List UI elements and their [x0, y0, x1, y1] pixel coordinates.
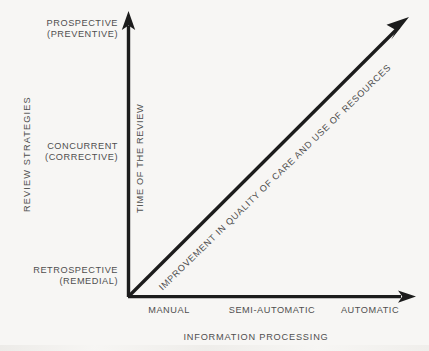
y-axis-category-retrospective: RETROSPECTIVE (REMEDIAL)	[33, 265, 118, 288]
y-axis-inner-annotation: TIME OF THE REVIEW	[135, 104, 146, 213]
y-axis-category-prospective: PROSPECTIVE (PREVENTIVE)	[47, 18, 118, 41]
x-axis-tick-automatic: AUTOMATIC	[332, 305, 408, 316]
x-axis-title: INFORMATION PROCESSING	[156, 332, 356, 343]
y-axis-category-retrospective-line1: RETROSPECTIVE	[33, 265, 118, 276]
y-axis-category-retrospective-line2: (REMEDIAL)	[33, 276, 118, 287]
y-axis-category-prospective-line2: (PREVENTIVE)	[47, 29, 118, 40]
y-axis-title: REVIEW STRATEGIES	[22, 96, 33, 212]
y-axis-category-prospective-line1: PROSPECTIVE	[47, 18, 118, 29]
scan-edge-artifact	[0, 345, 429, 351]
x-axis-tick-manual: MANUAL	[140, 305, 198, 316]
y-axis-category-concurrent-line1: CONCURRENT	[45, 141, 118, 152]
x-axis-tick-semi-automatic: SEMI-AUTOMATIC	[224, 305, 320, 316]
diagonal-arrow-line	[129, 27, 399, 296]
y-axis-category-concurrent-line2: (CORRECTIVE)	[45, 152, 118, 163]
y-axis-category-concurrent: CONCURRENT (CORRECTIVE)	[45, 141, 118, 164]
axes-and-arrows	[0, 0, 429, 351]
figure-diagram: REVIEW STRATEGIES TIME OF THE REVIEW PRO…	[0, 0, 429, 351]
